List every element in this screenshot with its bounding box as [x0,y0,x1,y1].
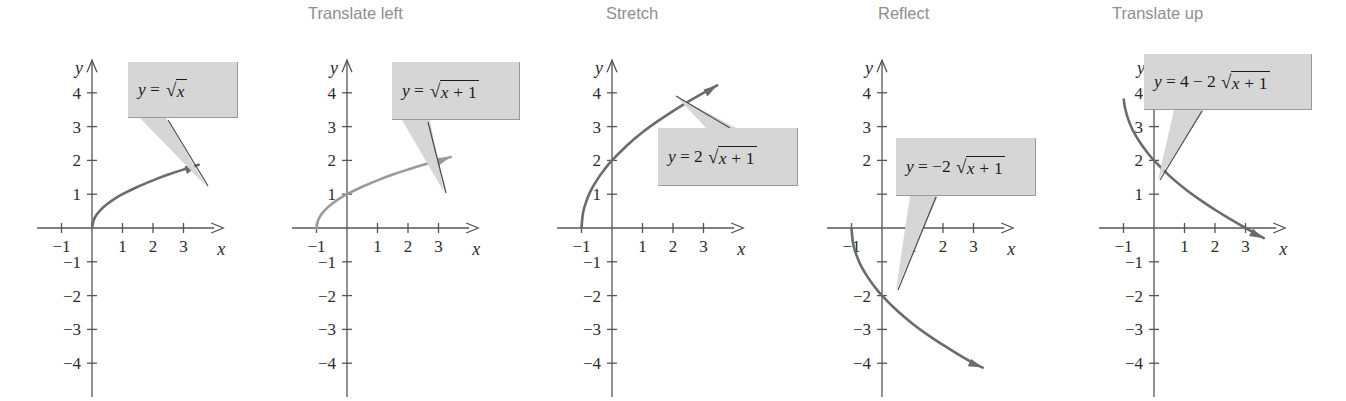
eq-equals: = [680,146,690,167]
eq-radicand: x + 1 [966,156,1005,179]
eq-equals: = [414,80,424,101]
y-tick-label: −3 [853,320,871,339]
function-curve [852,228,983,368]
eq-lhs: y [402,80,410,101]
eq-equals: = [150,79,160,100]
panel-translate-up: Translate up−1123−4−3−2−11234xyy=4−2√x +… [1062,0,1346,401]
x-tick-label: 1 [638,237,647,256]
graph-canvas: −1123−4−3−2−11234xy [524,0,792,401]
radical-sign-icon: √ [430,81,441,104]
y-axis-label: y [593,58,603,78]
y-tick-label: −2 [63,287,81,306]
x-tick-label: 1 [118,237,127,256]
y-tick-label: 4 [328,84,337,103]
y-tick-label: −4 [318,354,337,373]
x-axis-label: x [1278,239,1287,259]
y-tick-label: −3 [63,320,81,339]
equation-label: y=√x [138,79,187,102]
panel-reflect: Reflect−1123−4−3−2234xyy=−2√x + 1 [792,0,1062,401]
y-axis-label: y [73,58,83,78]
x-tick-label: 2 [1211,237,1220,256]
y-tick-label: 1 [593,185,602,204]
eq-constant: 4 [1180,71,1189,92]
x-tick-label: 1 [1180,237,1189,256]
y-tick-label: −4 [583,354,602,373]
x-tick-label: 3 [434,237,443,256]
eq-radicand: x + 1 [1231,71,1270,94]
eq-lhs: y [138,79,146,100]
y-tick-label: −3 [583,320,601,339]
y-axis-label: y [328,58,338,78]
graph-canvas: −1123−4−3−2−11234xy [0,0,262,401]
eq-radical: √x [166,79,187,102]
eq-radical: √x + 1 [430,80,479,103]
equation-label: y=√x + 1 [402,80,479,103]
x-axis-label: x [736,239,745,259]
x-tick-label: 1 [373,237,382,256]
callout-tail [402,120,444,192]
eq-radical: √x + 1 [956,156,1005,179]
x-tick-label: 2 [149,237,158,256]
panel-base: −1123−4−3−2−11234xyy=√x [0,0,262,401]
x-axis-label: x [1006,239,1015,259]
y-tick-label: 1 [1135,185,1144,204]
y-tick-label: −2 [853,287,871,306]
x-tick-label: 2 [939,237,948,256]
graph-canvas: −1123−4−3−2−11234xy [262,0,524,401]
y-tick-label: 1 [73,185,82,204]
y-tick-label: −4 [853,354,872,373]
y-tick-label: 4 [1135,84,1144,103]
radical-sign-icon: √ [1221,72,1232,95]
y-tick-label: 3 [328,118,337,137]
x-tick-label: 2 [669,237,678,256]
x-tick-label: 3 [179,237,188,256]
y-tick-label: 3 [863,118,872,137]
y-tick-label: 2 [1135,151,1144,170]
y-tick-label: 2 [593,151,602,170]
y-tick-label: −2 [583,287,601,306]
x-axis-label: x [216,239,225,259]
eq-coefficient: 2 [694,146,703,167]
y-tick-label: −2 [1125,287,1143,306]
panel-translate-left: Translate left−1123−4−3−2−11234xyy=√x + … [262,0,524,401]
y-tick-label: 2 [328,151,337,170]
y-tick-label: −3 [1125,320,1143,339]
y-tick-label: 4 [73,84,82,103]
y-tick-label: −1 [583,253,601,272]
x-tick-label: 3 [699,237,708,256]
y-tick-label: −4 [1125,354,1144,373]
eq-coefficient: 2 [1207,71,1216,92]
y-tick-label: −1 [318,253,336,272]
x-axis-label: x [471,239,480,259]
eq-radicand: x + 1 [440,80,479,103]
x-tick-label: 3 [969,237,978,256]
radical-sign-icon: √ [956,157,967,180]
equation-label: y=−2√x + 1 [906,156,1005,179]
equation-label: y=2√x + 1 [668,146,757,169]
function-curve [92,165,199,228]
y-tick-label: −1 [63,253,81,272]
y-axis-label: y [863,58,873,78]
graph-canvas: −1123−4−3−2234xy [792,0,1062,401]
eq-lhs: y [906,156,914,177]
eq-equals: = [1166,71,1176,92]
panel-stretch: Stretch−1123−4−3−2−11234xyy=2√x + 1 [524,0,792,401]
y-tick-label: 2 [863,151,872,170]
eq-lhs: y [668,146,676,167]
y-tick-label: 3 [73,118,82,137]
y-tick-label: 2 [73,151,82,170]
eq-radicand: x + 1 [718,146,757,169]
eq-radical: √x + 1 [708,146,757,169]
y-tick-label: −4 [63,354,82,373]
eq-radical: √x + 1 [1221,71,1270,94]
x-tick-label: 2 [404,237,413,256]
transformations-figure: −1123−4−3−2−11234xyy=√xTranslate left−11… [0,0,1346,401]
y-tick-label: −2 [318,287,336,306]
equation-label: y=4−2√x + 1 [1154,71,1270,94]
curve-arrowhead [704,85,718,96]
y-tick-label: −3 [318,320,336,339]
radical-sign-icon: √ [166,80,177,103]
radical-sign-icon: √ [708,147,719,170]
eq-lhs: y [1154,71,1162,92]
x-tick-label: 3 [1241,237,1250,256]
